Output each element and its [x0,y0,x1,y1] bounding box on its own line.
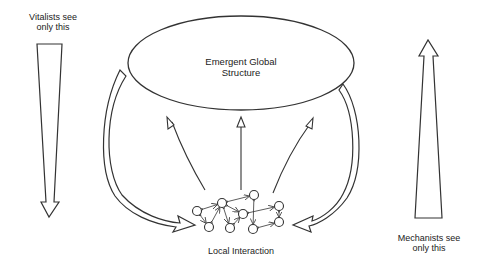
upward-arrow-left-head [167,117,174,129]
vitalists-label: Vitalists see only this [18,12,88,32]
network-edge [227,206,238,212]
upward-arrow-right [273,124,310,193]
upward-arrow-left [172,122,205,190]
network-node [239,210,248,219]
network-edge [227,196,248,201]
network-edge [248,207,273,213]
global-structure-label: Emergent Global Structure [181,56,301,78]
network-node [205,223,214,232]
mechanists-label-line2: only this [384,243,474,253]
global-structure-label-line1: Emergent Global [181,56,301,67]
network-node [226,224,235,233]
network-edge [202,205,217,210]
network-edge [258,223,273,227]
right-downward-curved-arrow [293,84,359,232]
network-edge [234,218,240,224]
network-node [218,199,227,208]
network-node [275,218,284,227]
local-interaction-network [193,191,284,234]
network-edge [200,215,205,222]
vitalists-down-arrow [37,44,62,217]
upward-arrows [167,117,313,193]
global-structure-label-line2: Structure [181,67,301,78]
mechanists-label-line1: Mechanists see [384,233,474,243]
network-node [275,202,284,211]
vitalists-label-line1: Vitalists see [18,12,88,22]
local-interaction-label: Local Interaction [196,246,286,256]
network-node [249,225,258,234]
network-edge [224,208,229,223]
diagram-canvas [0,0,486,266]
mechanists-label: Mechanists see only this [384,233,474,253]
mechanists-up-arrow [415,40,442,218]
vitalists-label-line2: only this [18,22,88,32]
network-node [193,207,202,216]
network-node [250,191,259,200]
network-edge [212,208,220,222]
upward-arrow-center-head [237,117,245,127]
network-edge [253,200,254,223]
